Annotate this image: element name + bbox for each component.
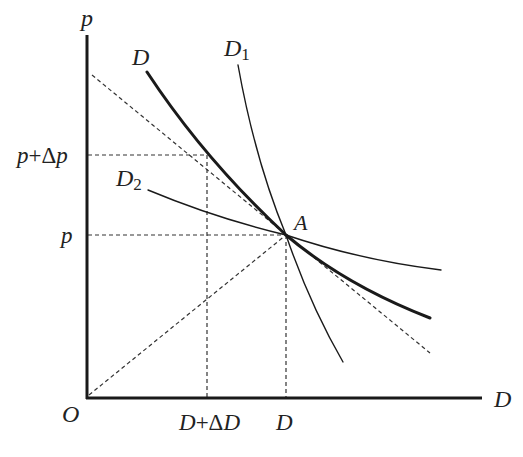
curve-label-d2: D2 <box>115 165 142 194</box>
curve-label-d1: D1 <box>223 35 250 64</box>
demand-curve-d1 <box>238 65 343 362</box>
tick-label-p-plus-dp: p+Δp <box>15 143 68 168</box>
tick-label-p: p <box>59 223 73 248</box>
guide-lines <box>88 75 430 398</box>
axes <box>86 35 482 399</box>
y-axis-label: p <box>79 5 93 31</box>
tick-label-d-plus-dd: D+ΔD <box>178 410 240 435</box>
curve-label-d: D <box>131 44 149 70</box>
origin-label: O <box>62 401 79 427</box>
tick-label-d: D <box>275 410 293 435</box>
demand-curve-d <box>147 72 430 318</box>
ray-from-origin <box>89 235 286 395</box>
tangent-line <box>92 75 430 353</box>
demand-elasticity-diagram: p D O p+Δp p D+ΔD D D D1 D2 A <box>0 0 523 457</box>
x-axis-label: D <box>493 386 511 412</box>
point-label-a: A <box>292 210 308 235</box>
